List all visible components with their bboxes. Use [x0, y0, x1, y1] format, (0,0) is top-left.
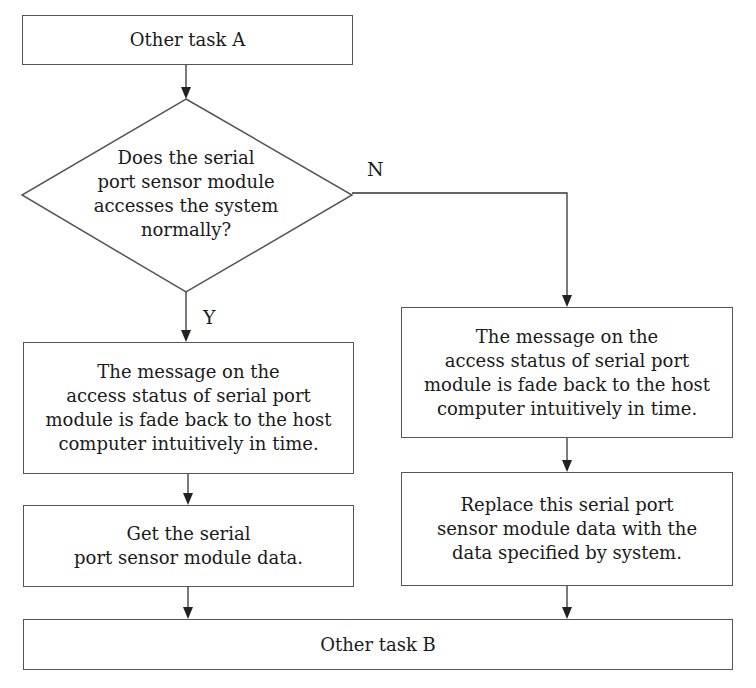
decision-line: Does the serial [118, 147, 255, 168]
box-line: access status of serial port [66, 384, 311, 408]
decision-text: Does the serial port sensor module acces… [60, 146, 312, 242]
box-line: computer intuitively in time. [58, 432, 318, 456]
decision-line: normally? [141, 219, 231, 240]
box-line: sensor module data with the [437, 517, 697, 541]
box-line: access status of serial port [445, 349, 690, 373]
end-label: Other task B [320, 633, 436, 657]
box-line: data specified by system. [452, 541, 682, 565]
box-line: Replace this serial port [461, 493, 674, 517]
box-line: module is fade back to the host [424, 373, 710, 397]
decision-line: port sensor module [97, 171, 274, 192]
box-line: computer intuitively in time. [437, 397, 697, 421]
box-line: Get the serial [127, 522, 251, 546]
decision-line: accesses the system [94, 195, 278, 216]
yes-step2-box: Get the serial port sensor module data. [23, 505, 354, 587]
box-line: port sensor module data. [74, 546, 303, 570]
box-line: module is fade back to the host [45, 408, 331, 432]
arrow-head [181, 87, 191, 99]
no-step2-box: Replace this serial port sensor module d… [401, 472, 733, 586]
box-line: The message on the [476, 325, 658, 349]
no-step1-box: The message on the access status of seri… [401, 307, 733, 438]
start-label: Other task A [130, 28, 245, 52]
start-box-other-task-a: Other task A [22, 15, 353, 65]
branch-label-yes: Y [203, 306, 216, 328]
yes-step1-box: The message on the access status of seri… [23, 342, 354, 474]
box-line: The message on the [97, 360, 279, 384]
end-box-other-task-b: Other task B [23, 619, 733, 670]
branch-label-no: N [367, 158, 384, 180]
